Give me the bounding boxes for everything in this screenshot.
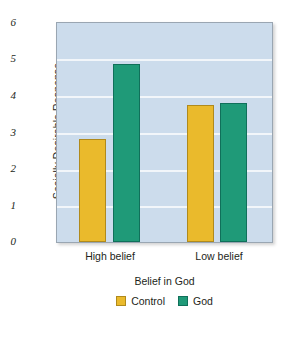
gridline-4 — [57, 96, 272, 98]
bar-high-belief-god — [113, 64, 140, 242]
y-tick-4: 4 — [0, 89, 16, 101]
y-tick-2: 2 — [0, 162, 16, 174]
legend-item-god: God — [178, 295, 213, 307]
x-category-low-belief: Low belief — [165, 250, 273, 262]
legend-swatch-control-icon — [116, 296, 126, 306]
legend-label-god: God — [193, 295, 213, 307]
chart-legend: Control God — [56, 295, 273, 307]
bar-low-belief-god — [220, 103, 247, 242]
y-tick-6: 6 — [0, 16, 16, 28]
legend-swatch-god-icon — [178, 296, 188, 306]
legend-label-control: Control — [131, 295, 165, 307]
y-tick-1: 1 — [0, 199, 16, 211]
y-tick-0: 0 — [0, 235, 16, 247]
bar-low-belief-control — [187, 105, 214, 242]
y-tick-5: 5 — [0, 52, 16, 64]
bar-chart-figure: Socially Desirable Response 6 5 4 3 2 1 … — [0, 0, 297, 339]
plot-area — [56, 22, 273, 243]
x-axis-title: Belief in God — [56, 275, 273, 287]
x-category-high-belief: High belief — [56, 250, 164, 262]
bar-high-belief-control — [79, 139, 106, 242]
y-tick-3: 3 — [0, 126, 16, 138]
legend-item-control: Control — [116, 295, 165, 307]
gridline-5 — [57, 59, 272, 61]
